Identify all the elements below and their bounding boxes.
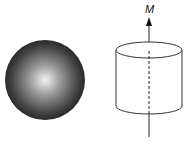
shaded-sphere bbox=[5, 40, 85, 120]
axis-m bbox=[146, 17, 152, 137]
axis-label-m: M bbox=[145, 3, 155, 15]
diagram-canvas: M bbox=[0, 0, 187, 145]
arrow-up-icon bbox=[146, 17, 152, 26]
